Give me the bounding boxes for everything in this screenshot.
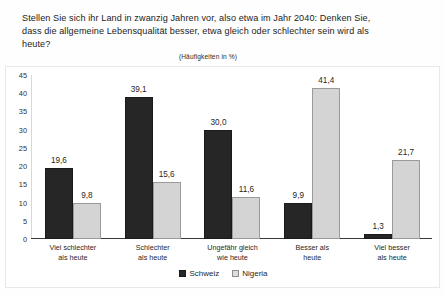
category-label-line: wie heute [193, 253, 273, 263]
legend-label: Nigeria [242, 269, 267, 278]
y-axis-tick-label: 40 [19, 89, 27, 98]
bar-value-label: 11,6 [239, 185, 254, 194]
bar-nigeria-1[interactable]: 15,6 [153, 182, 181, 239]
plot-area: 19,69,839,115,630,011,69,941,41,321,7 [33, 75, 432, 239]
page-title: Stellen Sie sich ihr Land in zwanzig Jah… [22, 12, 394, 52]
category-label-4: Viel besserals heute [352, 243, 432, 263]
bar-value-label: 21,7 [398, 148, 414, 157]
legend-swatch-icon [232, 270, 239, 277]
category-label-0: Viel schlechterals heute [33, 243, 113, 263]
bar-group: 1,321,7 [352, 75, 432, 239]
legend-item-schweiz[interactable]: Schweiz [179, 269, 219, 278]
bar-value-label: 19,6 [51, 156, 67, 165]
y-axis-tick-label: 35 [19, 107, 27, 116]
bar-value-label: 9,9 [293, 191, 304, 200]
bar-nigeria-3[interactable]: 41,4 [312, 88, 340, 239]
category-label-line: Schlechter [113, 243, 193, 253]
legend-item-nigeria[interactable]: Nigeria [232, 269, 267, 278]
legend-swatch-icon [179, 270, 186, 277]
bar-group: 30,011,6 [193, 75, 273, 239]
bar-schweiz-1[interactable]: 39,1 [125, 97, 153, 239]
bar-value-label: 39,1 [131, 85, 147, 94]
category-label-line: Ungefähr gleich [193, 243, 273, 253]
y-axis: 051015202530354045 [6, 75, 30, 239]
bar-group: 19,69,8 [33, 75, 113, 239]
category-label-line: heute [272, 253, 352, 263]
bar-nigeria-2[interactable]: 11,6 [232, 197, 260, 239]
category-label-2: Ungefähr gleichwie heute [193, 243, 273, 263]
category-label-line: Viel besser [352, 243, 432, 253]
x-axis-category-labels: Viel schlechterals heuteSchlechterals he… [33, 243, 432, 269]
category-label-line: als heute [113, 253, 193, 263]
category-label-line: Besser als [272, 243, 352, 253]
bar-schweiz-0[interactable]: 19,6 [45, 168, 73, 239]
title-line-1: Stellen Sie sich ihr Land in zwanzig Jah… [22, 12, 394, 25]
bar-group: 39,115,6 [113, 75, 193, 239]
bar-value-label: 1,3 [372, 222, 383, 231]
legend-label: Schweiz [189, 269, 219, 278]
bar-group: 9,941,4 [272, 75, 352, 239]
category-label-1: Schlechterals heute [113, 243, 193, 263]
bar-schweiz-2[interactable]: 30,0 [204, 130, 232, 239]
y-axis-tick-label: 25 [19, 143, 27, 152]
title-line-3: heute? [22, 38, 394, 51]
y-axis-tick-label: 20 [19, 162, 27, 171]
chart-legend: SchweizNigeria [6, 269, 441, 278]
y-axis-tick-label: 5 [23, 216, 27, 225]
y-axis-tick-label: 10 [19, 198, 27, 207]
chart-subtitle: (Häufigkeiten in %) [22, 53, 394, 60]
chart-container: 051015202530354045 19,69,839,115,630,011… [5, 66, 440, 288]
bar-value-label: 41,4 [318, 76, 334, 85]
bar-schweiz-3[interactable]: 9,9 [284, 203, 312, 239]
bar-nigeria-0[interactable]: 9,8 [73, 203, 101, 239]
y-axis-tick-label: 45 [19, 71, 27, 80]
bar-nigeria-4[interactable]: 21,7 [392, 160, 420, 239]
bar-value-label: 30,0 [211, 118, 227, 127]
bar-value-label: 15,6 [159, 170, 175, 179]
y-axis-line [31, 75, 32, 239]
bar-schweiz-4[interactable]: 1,3 [364, 234, 392, 239]
category-label-line: Viel schlechter [33, 243, 113, 253]
title-line-2: dass die allgemeine Lebensqualität besse… [22, 25, 394, 38]
category-label-line: als heute [33, 253, 113, 263]
bar-value-label: 9,8 [81, 191, 92, 200]
y-axis-tick-label: 0 [23, 235, 27, 244]
y-axis-tick-label: 15 [19, 180, 27, 189]
chart-page: Stellen Sie sich ihr Land in zwanzig Jah… [0, 0, 445, 298]
y-axis-tick-label: 30 [19, 125, 27, 134]
category-label-line: als heute [352, 253, 432, 263]
category-label-3: Besser alsheute [272, 243, 352, 263]
